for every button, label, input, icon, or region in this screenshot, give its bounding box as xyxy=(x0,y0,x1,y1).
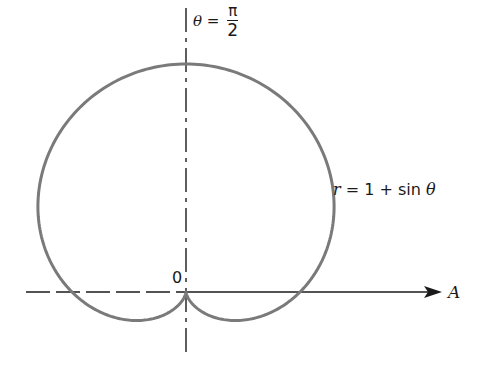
theta-symbol: θ xyxy=(193,12,202,30)
equation-text: = 1 + sin xyxy=(341,180,426,199)
curve-equation-label: r = 1 + sin θ xyxy=(333,180,436,199)
r-symbol: r xyxy=(333,180,341,199)
vertical-axis-label: θ = π2 xyxy=(193,4,238,39)
fraction-denominator: 2 xyxy=(227,21,238,39)
pi-over-two-fraction: π2 xyxy=(227,4,238,39)
origin-label: 0 xyxy=(172,268,182,287)
polar-axis-label: A xyxy=(448,282,460,302)
equals-sign: = xyxy=(202,12,224,30)
theta-symbol: θ xyxy=(426,180,436,199)
fraction-numerator: π xyxy=(227,4,238,21)
